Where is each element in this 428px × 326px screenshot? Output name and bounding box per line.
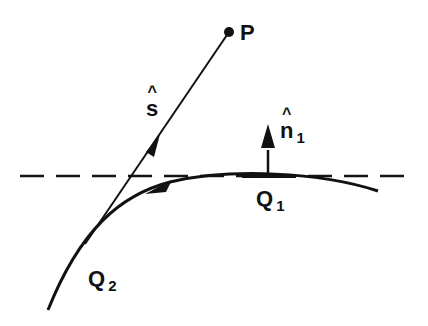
label-q2: Q2 (88, 268, 116, 290)
curve-direction-arrow (145, 180, 172, 194)
label-p: P (240, 22, 255, 44)
label-q1-subscript: 1 (276, 197, 284, 214)
label-p-text: P (240, 20, 255, 45)
ray-direction-arrow (146, 134, 160, 157)
diagram-svg (0, 0, 428, 326)
label-q1: Q1 (256, 188, 284, 210)
label-q2-subscript: 2 (108, 277, 116, 294)
label-s-hat: s (146, 98, 158, 120)
label-n-text: n (280, 120, 293, 142)
label-s-text: s (146, 98, 158, 120)
label-q2-text: Q (88, 266, 105, 291)
normal-n1-arrowhead (261, 124, 275, 148)
label-n-subscript: 1 (296, 129, 304, 146)
label-n1-hat: n1 (280, 120, 305, 142)
diagram-canvas: P s n1 Q1 Q2 (0, 0, 428, 326)
label-q1-text: Q (256, 186, 273, 211)
point-p-dot (224, 27, 234, 37)
